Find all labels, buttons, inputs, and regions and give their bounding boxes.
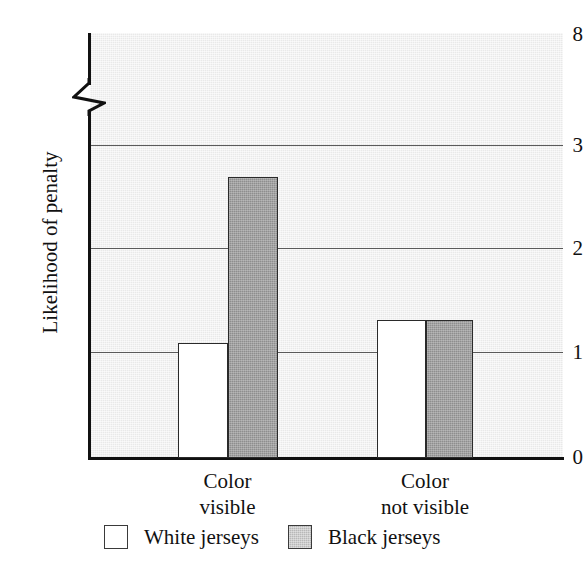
- y-tick-label-0: 0: [515, 447, 583, 468]
- bar-chart: 8 3 2 1 0 Likelihood of penalty Color vi…: [0, 0, 583, 574]
- plot-texture: [90, 33, 563, 458]
- bar-color-not-visible-white: [377, 320, 426, 458]
- y-axis-lower-segment: [88, 110, 91, 460]
- gridline-1: [90, 352, 563, 353]
- gridline-2: [90, 248, 563, 249]
- legend-label-black-jerseys: Black jerseys: [328, 527, 441, 548]
- axis-break-icon: [72, 78, 106, 116]
- bar-color-visible-white: [178, 343, 228, 458]
- legend-label-white-jerseys: White jerseys: [144, 527, 259, 548]
- category-label-line2: not visible: [350, 494, 500, 520]
- plot-area: [90, 33, 563, 458]
- category-label-line1: Color: [155, 468, 300, 494]
- bar-color-visible-black: [228, 177, 278, 458]
- x-axis-line: [88, 457, 564, 460]
- y-axis-title: Likelihood of penalty: [38, 113, 63, 373]
- legend-item-white-jerseys: White jerseys: [104, 525, 259, 549]
- legend-swatch-white-icon: [104, 525, 128, 549]
- legend-swatch-black-icon: [288, 525, 312, 549]
- legend-item-black-jerseys: Black jerseys: [288, 525, 441, 549]
- x-category-label-color-visible: Color visible: [155, 468, 300, 520]
- category-label-line1: Color: [350, 468, 500, 494]
- y-tick-label-2: 2: [515, 238, 583, 259]
- y-tick-label-8: 8: [515, 24, 583, 45]
- y-tick-label-3: 3: [515, 135, 583, 156]
- x-category-label-color-not-visible: Color not visible: [350, 468, 500, 520]
- legend: White jerseys Black jerseys: [0, 521, 583, 561]
- bar-color-not-visible-black: [426, 320, 473, 458]
- y-tick-label-1: 1: [515, 342, 583, 363]
- category-label-line2: visible: [155, 494, 300, 520]
- gridline-3: [90, 145, 563, 146]
